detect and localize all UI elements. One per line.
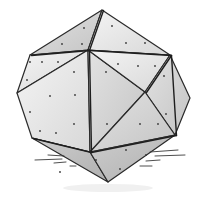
hatch-line (155, 155, 185, 156)
bolt-hole-dot (154, 65, 156, 67)
bolt-hole-dot (165, 113, 167, 115)
polyhedron-sketch (0, 0, 211, 200)
bolt-hole-dot (145, 154, 147, 156)
bolt-hole-dot (137, 65, 139, 67)
bolt-hole-dot (106, 123, 108, 125)
hatch-line (146, 160, 160, 161)
polyhedron-faces (17, 10, 190, 182)
bolt-hole-dot (61, 43, 63, 45)
bolt-hole-dot (57, 61, 59, 63)
bolt-hole-dot (117, 63, 119, 65)
bolt-hole-dot (55, 132, 57, 134)
bolt-hole-dot (73, 71, 75, 73)
facet-1 (88, 10, 170, 55)
bolt-hole-dot (29, 111, 31, 113)
bolt-hole-dot (59, 171, 61, 173)
bolt-hole-dot (119, 168, 121, 170)
bolt-hole-dot (41, 61, 43, 63)
bolt-hole-dot (29, 61, 31, 63)
bolt-hole-dot (81, 43, 83, 45)
bolt-hole-dot (74, 94, 76, 96)
hatch-line (54, 162, 66, 163)
bolt-hole-dot (144, 42, 146, 44)
bolt-hole-dot (26, 79, 28, 81)
bolt-hole-dot (105, 71, 107, 73)
bolt-hole-dot (125, 42, 127, 44)
bolt-hole-dot (139, 123, 141, 125)
bolt-hole-dot (39, 130, 41, 132)
bolt-hole-dot (125, 149, 127, 151)
bolt-hole-dot (157, 123, 159, 125)
ground-shadow (63, 184, 153, 192)
bolt-hole-dot (163, 75, 165, 77)
bolt-hole-dot (49, 95, 51, 97)
bolt-hole-dot (73, 123, 75, 125)
hatch-line (35, 159, 62, 160)
bolt-hole-dot (83, 27, 85, 29)
bolt-hole-dot (95, 159, 97, 161)
bolt-hole-dot (111, 25, 113, 27)
